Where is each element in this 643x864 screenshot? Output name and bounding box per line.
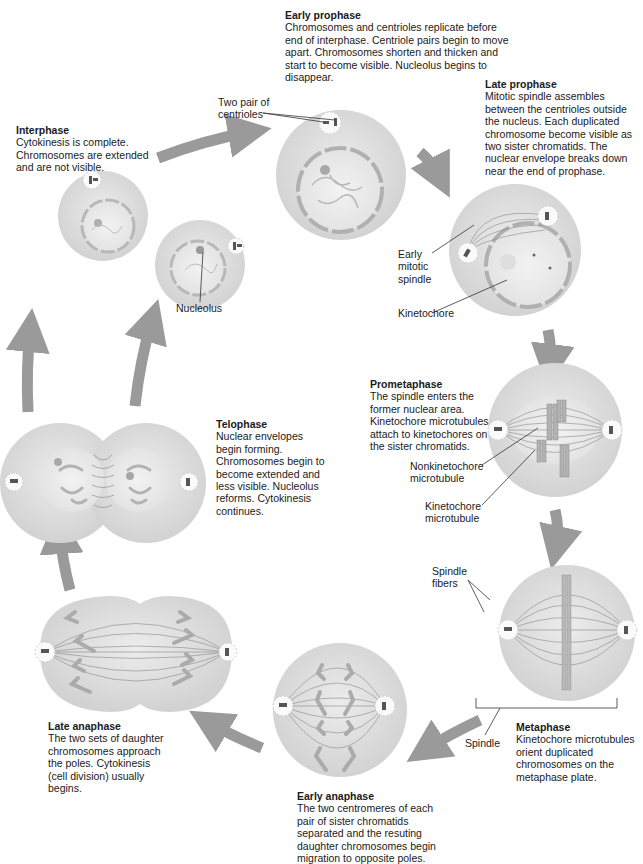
- phase-title: Interphase: [16, 124, 156, 136]
- phase-label-late-anaphase: Late anaphase The two sets of daughter c…: [48, 720, 168, 794]
- callout-spindle-fibers: Spindle fibers: [432, 565, 476, 590]
- callout-two-pair-centrioles: Two pair of centrioles: [218, 96, 282, 121]
- arrow-late-prophase-to-prometaphase: [548, 330, 551, 366]
- phase-description: Nuclear envelopes begin forming. Chromos…: [216, 430, 326, 517]
- cell-metaphase: [498, 565, 637, 701]
- arrow-interphase-to-early-prophase: [158, 132, 250, 158]
- phase-title: Telophase: [216, 418, 326, 430]
- phase-label-late-prophase: Late prophase Mitotic spindle assembles …: [485, 78, 635, 177]
- phase-label-metaphase: Metaphase Kinetochore microtubules orien…: [516, 721, 641, 783]
- arrow-early-anaphase-to-late-anaphase: [208, 722, 262, 748]
- phase-title: Early prophase: [285, 9, 515, 21]
- cell-early-prophase: [276, 110, 406, 240]
- cell-late-prophase: [449, 184, 581, 316]
- phase-description: The two sets of daughter chromosomes app…: [48, 732, 168, 794]
- callout-early-mitotic-spindle: Early mitotic spindle: [398, 248, 440, 285]
- arrow-telophase-to-interphase-right: [135, 320, 152, 406]
- callout-nucleolus: Nucleolus: [176, 302, 222, 314]
- cell-interphase-left: [58, 171, 148, 261]
- phase-title: Late prophase: [485, 78, 635, 90]
- phase-title: Metaphase: [516, 721, 641, 733]
- phase-label-early-prophase: Early prophase Chromosomes and centriole…: [285, 9, 515, 83]
- phase-label-prometaphase: Prometaphase The spindle enters the form…: [370, 378, 490, 452]
- phase-label-interphase: Interphase Cytokinesis is complete. Chro…: [16, 124, 156, 174]
- phase-description: Chromosomes and centrioles replicate bef…: [285, 21, 515, 83]
- callout-nonkinetochore-microtubule: Nonkinetochore microtubule: [410, 460, 485, 485]
- arrow-early-prophase-to-late-prophase: [420, 152, 440, 178]
- callout-kinetochore: Kinetochore: [398, 307, 454, 319]
- arrow-telophase-to-interphase-left: [27, 330, 30, 412]
- phase-description: The spindle enters the former nuclear ar…: [370, 390, 490, 452]
- cell-prometaphase: [488, 363, 622, 497]
- cell-late-anaphase: [35, 596, 237, 712]
- phase-description: The two centromeres of each pair of sist…: [297, 802, 437, 864]
- phase-description: Cytokinesis is complete. Chromosomes are…: [16, 136, 156, 173]
- phase-title: Prometaphase: [370, 378, 490, 390]
- callout-spindle: Spindle: [465, 737, 500, 749]
- cell-telophase: [0, 423, 206, 543]
- callout-kinetochore-microtubule: Kinetochore microtubule: [425, 500, 485, 525]
- phase-title: Early anaphase: [297, 790, 437, 802]
- cell-early-anaphase: [273, 643, 407, 777]
- phase-description: Kinetochore microtubules orient duplicat…: [516, 733, 641, 783]
- arrow-prometaphase-to-metaphase: [555, 510, 558, 548]
- phase-description: Mitotic spindle assembles between the ce…: [485, 90, 635, 177]
- phase-label-early-anaphase: Early anaphase The two centromeres of ea…: [297, 790, 437, 864]
- phase-title: Late anaphase: [48, 720, 168, 732]
- phase-label-telophase: Telophase Nuclear envelopes begin formin…: [216, 418, 326, 517]
